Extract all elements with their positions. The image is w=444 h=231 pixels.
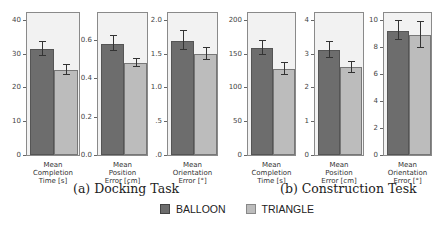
bar-balloon (318, 50, 340, 155)
y-tick-label: 2 (352, 124, 378, 132)
y-tick-mark (311, 121, 314, 122)
error-cap (259, 54, 266, 55)
error-cap (63, 64, 70, 65)
y-tick-label: 1.0 (136, 83, 162, 91)
error-cap (110, 50, 117, 51)
y-tick-label: 0.2 (66, 113, 92, 121)
y-tick-label: 1.5 (136, 50, 162, 58)
y-tick-label: 2.0 (136, 16, 162, 24)
legend-item-triangle: TRIANGLE (246, 203, 315, 215)
y-tick-mark (23, 54, 26, 55)
y-tick-label: 20 (0, 83, 21, 91)
chart-panel (314, 12, 364, 156)
y-tick-mark (164, 87, 167, 88)
y-tick-label: .5 (136, 117, 162, 125)
bar-balloon (171, 41, 194, 155)
y-tick-mark (164, 20, 167, 21)
y-tick-mark (311, 54, 314, 55)
y-tick-mark (94, 78, 97, 79)
y-tick-label: 4 (283, 16, 309, 24)
y-tick-label: 0 (283, 151, 309, 159)
caption-docking-task: (a) Docking Task (73, 181, 179, 196)
error-bar (398, 21, 399, 40)
y-tick-mark (23, 20, 26, 21)
y-tick-mark (23, 155, 26, 156)
bar-balloon (251, 48, 273, 155)
error-cap (39, 41, 46, 42)
y-tick-mark (23, 121, 26, 122)
y-tick-mark (244, 155, 247, 156)
error-cap (348, 61, 355, 62)
y-tick-label: 150 (216, 50, 242, 58)
y-tick-mark (244, 54, 247, 55)
error-bar (183, 31, 184, 50)
y-tick-label: .0 (136, 151, 162, 159)
error-bar (262, 41, 263, 55)
y-tick-mark (94, 40, 97, 41)
y-tick-mark (380, 47, 383, 48)
y-tick-mark (244, 121, 247, 122)
y-tick-mark (311, 155, 314, 156)
y-tick-label: 6 (352, 70, 378, 78)
error-cap (281, 62, 288, 63)
y-tick-label: 3 (283, 50, 309, 58)
legend-item-balloon: BALLOON (160, 203, 226, 215)
error-cap (180, 49, 187, 50)
y-tick-label: 4 (352, 97, 378, 105)
error-bar (420, 22, 421, 48)
chart-panel (167, 12, 218, 156)
y-tick-label: 100 (216, 83, 242, 91)
error-cap (326, 41, 333, 42)
error-cap (395, 20, 402, 21)
error-bar (42, 42, 43, 56)
error-cap (281, 74, 288, 75)
error-cap (180, 30, 187, 31)
triangle-swatch-icon (246, 204, 256, 214)
error-cap (395, 39, 402, 40)
y-tick-label: 10 (352, 16, 378, 24)
y-tick-label: 40 (0, 16, 21, 24)
error-cap (326, 57, 333, 58)
y-tick-mark (94, 155, 97, 156)
y-tick-label: 2 (283, 83, 309, 91)
legend: BALLOON TRIANGLE (160, 203, 334, 215)
y-tick-label: 0.6 (66, 36, 92, 44)
y-tick-label: 10 (0, 117, 21, 125)
y-tick-label: 8 (352, 43, 378, 51)
caption-construction-task: (b) Construction Tesk (280, 181, 417, 196)
y-tick-mark (380, 101, 383, 102)
bar-triangle (194, 54, 217, 155)
y-tick-label: 0.0 (66, 151, 92, 159)
error-bar (113, 36, 114, 51)
y-tick-mark (164, 121, 167, 122)
bar-triangle (409, 35, 431, 155)
bar-triangle (273, 69, 295, 155)
chart-panel (383, 12, 432, 156)
error-cap (133, 58, 140, 59)
error-cap (417, 21, 424, 22)
error-cap (417, 47, 424, 48)
y-tick-label: 50 (216, 117, 242, 125)
bar-balloon (101, 44, 124, 155)
y-tick-label: 0 (352, 151, 378, 159)
bar-balloon (387, 31, 409, 155)
error-cap (133, 66, 140, 67)
bar-triangle (340, 67, 362, 155)
legend-label-balloon: BALLOON (176, 203, 226, 215)
error-bar (329, 42, 330, 58)
y-tick-mark (164, 155, 167, 156)
balloon-swatch-icon (160, 204, 170, 214)
error-cap (110, 35, 117, 36)
chart-panel (26, 12, 80, 156)
y-tick-mark (244, 87, 247, 88)
error-cap (39, 55, 46, 56)
y-tick-mark (311, 20, 314, 21)
y-tick-label: 200 (216, 16, 242, 24)
y-tick-mark (380, 74, 383, 75)
y-tick-label: 1 (283, 117, 309, 125)
y-tick-label: 0 (216, 151, 242, 159)
y-tick-label: 0 (0, 151, 21, 159)
y-tick-mark (380, 155, 383, 156)
y-tick-mark (244, 20, 247, 21)
y-tick-mark (311, 87, 314, 88)
